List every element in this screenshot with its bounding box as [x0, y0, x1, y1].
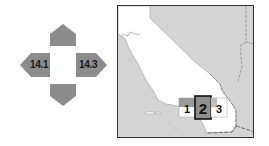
arrow-up-icon[interactable] [50, 24, 76, 46]
right-page-label[interactable]: 14.3 [79, 59, 97, 70]
locator-map: 1 2 3 [117, 5, 254, 138]
arrow-down-icon[interactable] [50, 84, 76, 106]
page-navigator: 14.1 14.3 [0, 0, 115, 146]
left-page-label[interactable]: 14.1 [30, 59, 48, 70]
map-tile-2-label: 2 [196, 100, 210, 117]
california-map [118, 6, 254, 138]
map-tile-1-label: 1 [180, 103, 194, 115]
navigator-arrows [0, 0, 115, 146]
map-tile-3-label: 3 [212, 103, 226, 115]
